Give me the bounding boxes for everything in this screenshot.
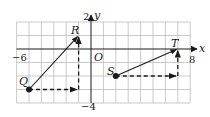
y-max-label: 2 [83,11,89,22]
y-min-label: −4 [81,101,96,112]
grid [17,22,191,103]
x-axis-label: x [199,42,206,55]
origin-label: O [94,51,103,64]
y-axis-label: y [93,9,101,22]
x-max-label: 8 [189,54,195,65]
label-Q: Q [19,75,28,88]
vector-QR [29,37,78,90]
label-S: S [107,65,115,78]
label-R: R [70,24,79,37]
label-T: T [171,37,180,50]
coordinate-plane-diagram: Q R S T x y O −6 8 2 −4 [0,0,210,117]
x-min-label: −6 [12,52,27,63]
